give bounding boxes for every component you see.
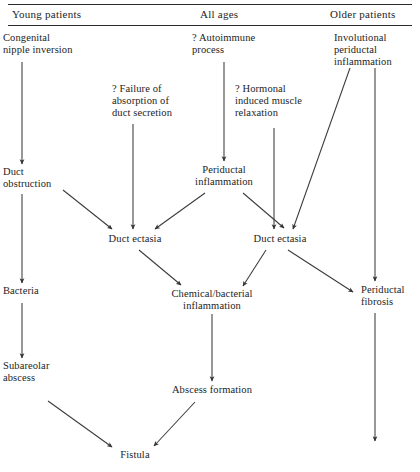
node-fistula: Fistula: [120, 449, 149, 461]
figure-canvas: Young patients All ages Older patients: [0, 0, 420, 472]
node-abscess-formation: Abscess formation: [172, 384, 252, 396]
node-periductal-inflammation: Periductal inflammation: [195, 164, 253, 188]
node-bacteria: Bacteria: [3, 285, 39, 297]
edge-duct-obstruction-to-duct-ectasia-left: [63, 190, 112, 229]
node-failure-of-absorption: ? Failure of absorption of duct secretio…: [112, 83, 172, 120]
node-subareolar-abscess: Subareolar abscess: [3, 360, 49, 384]
edge-periductal-inflammation-to-duct-ectasia-left: [155, 193, 205, 229]
node-chemical-bacterial-inflammation: Chemical/bacterial inflammation: [171, 288, 252, 312]
node-duct-ectasia-left: Duct ectasia: [109, 233, 162, 245]
edge-abscess-formation-to-fistula: [154, 402, 195, 446]
edge-duct-ectasia-right-to-periductal-fibrosis: [288, 250, 353, 292]
node-hormonal-muscle-relaxation: ? Hormonal induced muscle relaxation: [235, 83, 302, 120]
node-periductal-fibrosis: Periductal fibrosis: [361, 284, 405, 308]
edge-subareolar-abscess-to-fistula: [48, 401, 112, 447]
flowchart-arrows: [0, 0, 420, 472]
node-congenital-nipple-inversion: Congenital nipple inversion: [3, 32, 73, 56]
node-duct-obstruction: Duct obstruction: [3, 166, 51, 190]
node-involutional-periductal-inflammation: Involutional periductal inflammation: [334, 32, 392, 69]
edge-duct-ectasia-left-to-chemical-bacterial: [139, 250, 181, 285]
edge-periductal-inflammation-to-duct-ectasia-right: [243, 193, 284, 228]
node-autoimmune-process: ? Autoimmune process: [192, 32, 255, 56]
edge-duct-ectasia-right-to-chemical-bacterial: [243, 250, 266, 286]
node-duct-ectasia-right: Duct ectasia: [254, 233, 307, 245]
